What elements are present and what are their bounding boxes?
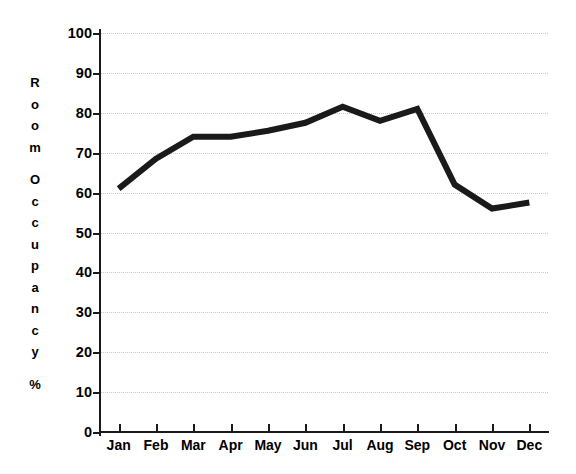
- y-axis-title-char: p: [18, 255, 52, 277]
- y-axis-title: RoomOccupancy%: [18, 72, 52, 395]
- y-axis-tick-label: 30: [50, 304, 92, 320]
- y-axis-title-gap: [18, 158, 52, 169]
- y-axis-tick-label: 50: [50, 225, 92, 241]
- y-axis-tick-label: 70: [50, 145, 92, 161]
- y-axis-tick-label: 10: [50, 384, 92, 400]
- y-axis-tick-label: 90: [50, 65, 92, 81]
- y-axis-tick-label: 20: [50, 344, 92, 360]
- y-axis-tick-labels: 0102030405060708090100: [50, 0, 92, 474]
- plot-area: JanFebMarAprMayJunJulAugSepOctNovDec: [100, 33, 548, 432]
- y-axis-title-char: c: [18, 320, 52, 342]
- line-chart: RoomOccupancy% 0102030405060708090100 Ja…: [0, 0, 576, 474]
- y-axis-title-char: R: [18, 72, 52, 94]
- y-axis-title-char: c: [18, 212, 52, 234]
- y-axis-title-char: %: [18, 374, 52, 396]
- y-axis-tick-label: 100: [50, 25, 92, 41]
- y-axis-tick-label: 40: [50, 264, 92, 280]
- y-axis-tick-label: 80: [50, 105, 92, 121]
- y-axis-title-char: o: [18, 115, 52, 137]
- y-axis-title-gap: [18, 363, 52, 374]
- y-axis-title-char: a: [18, 277, 52, 299]
- y-axis-title-char: u: [18, 234, 52, 256]
- y-axis-title-char: o: [18, 94, 52, 116]
- y-axis-title-char: y: [18, 341, 52, 363]
- y-axis-tick-label: 0: [50, 424, 92, 440]
- x-axis-tick-label: Dec: [499, 437, 559, 453]
- y-axis-title-char: O: [18, 169, 52, 191]
- y-axis-title-char: m: [18, 137, 52, 159]
- data-series-line: [100, 33, 548, 432]
- y-axis-title-char: n: [18, 298, 52, 320]
- series-polyline: [119, 107, 530, 209]
- y-axis-tick-label: 60: [50, 185, 92, 201]
- y-axis-title-char: c: [18, 191, 52, 213]
